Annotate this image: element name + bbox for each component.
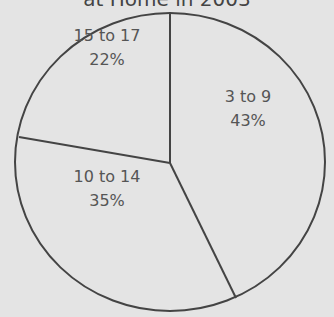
- slice-label-3-to-9: 3 to 9 43%: [193, 85, 303, 133]
- slice-divider-lower-right: [170, 163, 236, 298]
- slice-percent: 22%: [52, 48, 162, 72]
- slice-category: 3 to 9: [193, 85, 303, 109]
- slice-category: 10 to 14: [52, 165, 162, 189]
- slice-divider-left: [19, 137, 170, 163]
- slice-label-10-to-14: 10 to 14 35%: [52, 165, 162, 213]
- slice-category: 15 to 17: [52, 24, 162, 48]
- slice-percent: 43%: [193, 109, 303, 133]
- slice-percent: 35%: [52, 189, 162, 213]
- pie-chart: [0, 0, 334, 317]
- slice-label-15-to-17: 15 to 17 22%: [52, 24, 162, 72]
